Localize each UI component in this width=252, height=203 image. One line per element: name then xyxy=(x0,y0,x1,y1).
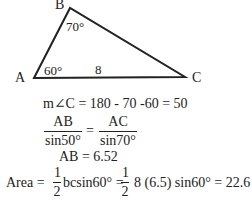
fraction-numerator: AB xyxy=(44,115,82,131)
fraction-ab-over-sin50: AB sin50° xyxy=(44,115,82,148)
fraction-numerator: AC xyxy=(99,115,137,131)
angle-c-equation: m∠C = 180 - 70 -60 = 50 xyxy=(43,97,188,111)
fraction-numerator: 1 xyxy=(53,166,61,182)
fraction-one-half-2: 1 2 xyxy=(121,166,129,199)
angle-b-label: 70° xyxy=(66,20,84,33)
vertex-label-b: B xyxy=(55,0,64,12)
ab-result: AB = 6.52 xyxy=(59,150,118,164)
fraction-numerator: 1 xyxy=(121,166,129,182)
fraction-one-half: 1 2 xyxy=(53,166,61,199)
side-ac-label: 8 xyxy=(95,63,102,76)
angle-a-label: 60° xyxy=(44,64,62,77)
equals-sign: = xyxy=(86,124,94,138)
fraction-denominator: 2 xyxy=(121,183,129,199)
fraction-ac-over-sin70: AC sin70° xyxy=(99,115,137,148)
area-prefix: Area = xyxy=(6,176,45,190)
fraction-denominator: sin70° xyxy=(99,132,137,148)
area-formula: bcsin60° = xyxy=(63,176,124,190)
area-result: 8 (6.5) sin60° = 22.6 xyxy=(134,176,250,190)
fraction-denominator: 2 xyxy=(53,183,61,199)
vertex-label-a: A xyxy=(15,71,25,85)
vertex-label-c: C xyxy=(192,71,201,85)
fraction-denominator: sin50° xyxy=(44,132,82,148)
